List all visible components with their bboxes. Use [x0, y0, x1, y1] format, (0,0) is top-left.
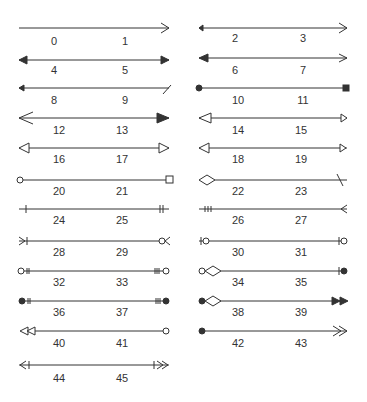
arrow-26-27	[199, 205, 347, 213]
circle-hollow-icon	[163, 268, 169, 274]
label-13: 13	[107, 124, 137, 136]
hollow-triangle-icon	[340, 144, 346, 152]
label-26: 26	[223, 214, 253, 226]
arrow-14-15	[199, 113, 347, 123]
label-4: 4	[39, 64, 69, 76]
label-18: 18	[223, 153, 253, 165]
filled-arrow-icon	[19, 56, 27, 64]
label-38: 38	[223, 306, 253, 318]
dot-icon	[199, 328, 205, 334]
arrow-20-21	[17, 176, 173, 183]
arrow-16-17	[19, 143, 169, 153]
label-22: 22	[223, 185, 253, 197]
label-1: 1	[110, 35, 140, 47]
label-39: 39	[286, 306, 316, 318]
arrow-6-7	[199, 54, 347, 62]
diamond-hollow-icon	[205, 266, 221, 276]
arrow-18-19	[199, 143, 347, 153]
hollow-triangle-icon	[159, 143, 169, 153]
label-0: 0	[39, 35, 69, 47]
arrow-22-23	[199, 174, 347, 186]
arrow-34-35	[199, 266, 347, 276]
label-27: 27	[286, 214, 316, 226]
diamond-hollow-icon	[205, 296, 221, 306]
label-16: 16	[44, 153, 74, 165]
label-23: 23	[286, 185, 316, 197]
filled-arrow-icon	[332, 297, 340, 305]
label-12: 12	[44, 124, 74, 136]
label-11: 11	[288, 94, 318, 106]
label-37: 37	[107, 306, 137, 318]
filled-arrow-icon	[161, 56, 169, 64]
label-20: 20	[44, 185, 74, 197]
filled-arrow-icon	[340, 297, 348, 305]
circle-hollow-icon	[159, 238, 165, 244]
dot-icon	[163, 298, 169, 304]
label-15: 15	[286, 124, 316, 136]
filled-arrow-icon	[199, 54, 208, 62]
arrow-4-5	[19, 56, 169, 64]
circle-hollow-icon	[163, 328, 169, 334]
circle-hollow-icon	[341, 238, 347, 244]
label-34: 34	[223, 276, 253, 288]
label-42: 42	[223, 337, 253, 349]
hollow-triangle-icon	[199, 143, 209, 153]
small-filled-arrow-icon	[19, 85, 24, 91]
label-29: 29	[107, 246, 137, 258]
label-44: 44	[44, 372, 74, 384]
label-32: 32	[44, 276, 74, 288]
arrow-24-25	[19, 205, 169, 213]
arrow-30-31	[199, 237, 347, 245]
hollow-triangle-icon	[199, 113, 211, 123]
dot-icon	[341, 268, 347, 274]
label-17: 17	[107, 153, 137, 165]
label-45: 45	[107, 372, 137, 384]
arrow-40-41	[20, 327, 169, 335]
hollow-triangle-icon	[341, 114, 347, 122]
label-30: 30	[223, 246, 253, 258]
label-36: 36	[44, 306, 74, 318]
arrow-44-45	[19, 361, 169, 369]
crow-foot-icon	[165, 237, 170, 245]
arrow-12-13	[19, 112, 169, 124]
square-hollow-icon	[166, 176, 173, 183]
square-filled-icon	[343, 85, 349, 91]
label-9: 9	[110, 94, 140, 106]
label-10: 10	[223, 94, 253, 106]
arrow-36-37	[19, 298, 169, 304]
dot-icon	[196, 85, 202, 91]
label-43: 43	[286, 337, 316, 349]
label-41: 41	[107, 337, 137, 349]
arrow-0-1	[19, 23, 169, 33]
label-31: 31	[286, 246, 316, 258]
label-40: 40	[44, 337, 74, 349]
arrow-42-43	[199, 326, 347, 336]
hollow-triangle-icon	[19, 143, 29, 153]
arrow-28-29	[19, 237, 170, 245]
half-slash-icon	[163, 85, 171, 94]
label-8: 8	[39, 94, 69, 106]
label-7: 7	[288, 64, 318, 76]
label-14: 14	[223, 124, 253, 136]
dot-icon	[19, 298, 25, 304]
circle-hollow-icon	[18, 268, 24, 274]
label-25: 25	[107, 214, 137, 226]
label-33: 33	[107, 276, 137, 288]
arrow-32-33	[18, 268, 169, 274]
label-35: 35	[286, 276, 316, 288]
label-6: 6	[220, 64, 250, 76]
label-24: 24	[44, 214, 74, 226]
label-21: 21	[107, 185, 137, 197]
diamond-hollow-icon	[199, 175, 215, 185]
label-19: 19	[286, 153, 316, 165]
label-2: 2	[220, 32, 250, 44]
arrow-38-39	[199, 296, 348, 306]
label-5: 5	[110, 64, 140, 76]
circle-hollow-icon	[17, 177, 23, 183]
arrow-10-11	[196, 85, 349, 91]
label-3: 3	[288, 32, 318, 44]
circle-hollow-icon	[203, 238, 209, 244]
filled-arrow-icon	[157, 113, 169, 123]
arrow-8-9	[19, 85, 171, 94]
small-filled-arrow-icon	[199, 25, 203, 31]
